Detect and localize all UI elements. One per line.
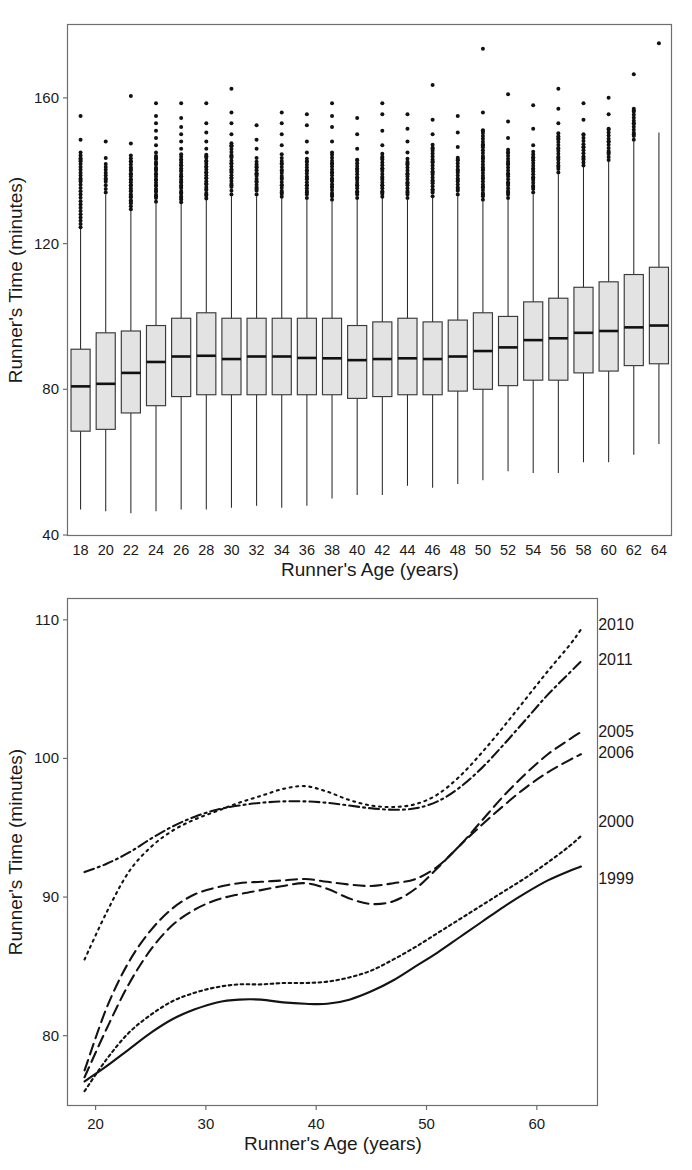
boxplot-outlier-point: [506, 92, 510, 96]
boxplot-outlier-point: [556, 87, 560, 91]
boxplot-outlier-point: [380, 152, 384, 156]
curves-x-axis-title: Runner's Age (years): [244, 1133, 422, 1154]
boxplot-outlier-point: [531, 191, 535, 195]
boxplot-svg: 4080120160 18202224262830323436384042444…: [0, 0, 692, 585]
boxplot-outlier-point: [405, 157, 409, 161]
boxplot-outlier-point: [481, 110, 485, 114]
boxplot-outlier-point: [657, 41, 661, 45]
boxplot-outlier-point: [481, 128, 485, 132]
boxplot-box: [574, 287, 593, 373]
boxplot-y-tick-label: 80: [42, 380, 59, 397]
boxplot-outlier-point: [154, 121, 158, 125]
boxplot-outlier-point: [355, 196, 359, 200]
boxplot-outlier-point: [632, 138, 636, 142]
boxplot-x-tick-label: 46: [425, 542, 441, 558]
boxplot-box: [297, 318, 316, 395]
boxplot-outlier-point: [380, 143, 384, 147]
boxplot-outlier-point: [405, 140, 409, 144]
boxplot-box: [398, 318, 417, 395]
boxplot-x-tick-label: 48: [450, 542, 466, 558]
boxplot-box: [96, 333, 115, 430]
boxplot-box: [498, 316, 517, 385]
boxplot-outlier-point: [204, 101, 208, 105]
boxplot-outlier-point: [431, 143, 435, 147]
boxplot-box: [197, 313, 216, 395]
boxplot-outlier-point: [556, 121, 560, 125]
boxplot-outlier-point: [305, 196, 309, 200]
boxplot-outlier-point: [280, 156, 284, 160]
boxplot-outlier-point: [79, 114, 83, 118]
boxplot-box: [71, 349, 90, 431]
boxplot-outlier-point: [581, 118, 585, 122]
boxplot-outlier-point: [154, 200, 158, 204]
boxplot-outlier-point: [305, 123, 309, 127]
boxplot-x-tick-label: 42: [374, 542, 390, 558]
boxplot-outlier-point: [456, 145, 460, 149]
curves-svg: 8090100110 2030405060 199920002005200620…: [0, 585, 692, 1170]
boxplot-outlier-point: [179, 147, 183, 151]
boxplot-x-tick-label: 26: [173, 542, 189, 558]
boxplot-outlier-point: [79, 151, 83, 155]
boxplot-outlier-point: [204, 153, 208, 157]
boxplot-outlier-point: [506, 120, 510, 124]
boxplot-outlier-point: [456, 130, 460, 134]
boxplot-outlier-point: [456, 192, 460, 196]
boxplot-outlier-point: [280, 143, 284, 147]
boxplot-outlier-point: [154, 101, 158, 105]
boxplot-x-tick-label: 38: [324, 542, 340, 558]
curve-label-2000: 2000: [598, 813, 634, 830]
boxplot-box: [146, 326, 165, 406]
boxplot-outlier-point: [204, 121, 208, 125]
boxplot-outlier-point: [280, 121, 284, 125]
boxplot-outlier-point: [431, 118, 435, 122]
boxplot-outlier-point: [179, 140, 183, 144]
boxplot-outlier-point: [154, 136, 158, 140]
boxplot-x-tick-label: 34: [274, 542, 290, 558]
boxplot-y-tick-label: 120: [34, 235, 59, 252]
boxplot-x-tick-label: 20: [98, 542, 114, 558]
boxplot-x-tick-label: 36: [299, 542, 315, 558]
boxplot-outlier-point: [280, 152, 284, 156]
boxplot-box: [649, 267, 668, 364]
curves-y-tick-label: 110: [35, 611, 59, 628]
boxplot-x-tick-label: 30: [223, 542, 239, 558]
curves-y-axis-title: Runner's Time (minutes): [5, 749, 26, 955]
boxplot-outlier-point: [280, 132, 284, 136]
boxplot-outlier-point: [355, 158, 359, 162]
boxplot-outlier-point: [79, 138, 83, 142]
boxplot-outlier-point: [129, 141, 133, 145]
boxplot-x-tick-label: 28: [198, 542, 214, 558]
boxplot-outlier-point: [129, 154, 133, 158]
boxplot-x-tick-label: 32: [249, 542, 265, 558]
boxplot-outlier-point: [204, 130, 208, 134]
boxplot-y-tick-label: 160: [34, 89, 59, 106]
boxplot-outlier-point: [330, 153, 334, 157]
boxplot-outlier-point: [305, 140, 309, 144]
boxplot-outlier-point: [456, 156, 460, 160]
boxplot-outlier-point: [154, 143, 158, 147]
boxplot-outlier-point: [380, 129, 384, 133]
boxplot-outlier-point: [305, 112, 309, 116]
boxplot-outlier-point: [355, 116, 359, 120]
boxplot-outlier-point: [305, 157, 309, 161]
curve-label-1999: 1999: [598, 870, 634, 887]
curve-label-2010: 2010: [598, 616, 634, 633]
boxplot-outlier-point: [355, 147, 359, 151]
curve-label-2005: 2005: [598, 723, 634, 740]
boxplot-outlier-point: [531, 103, 535, 107]
boxplot-outlier-point: [280, 110, 284, 114]
boxplot-outlier-point: [607, 112, 611, 116]
boxplot-x-tick-label: 58: [575, 542, 591, 558]
boxplot-box: [322, 318, 341, 395]
boxplot-outlier-point: [179, 155, 183, 159]
boxplot-outlier-point: [305, 151, 309, 155]
curves-x-tick-label: 40: [308, 1115, 325, 1132]
boxplot-outlier-point: [405, 127, 409, 131]
boxplot-outlier-point: [229, 132, 233, 136]
boxplot-outlier-point: [154, 154, 158, 158]
boxplot-outlier-point: [229, 192, 233, 196]
boxplot-outlier-point: [556, 171, 560, 175]
curve-label-2011: 2011: [598, 651, 633, 668]
curves-y-tick-label: 80: [42, 1027, 59, 1044]
boxplot-outlier-point: [255, 123, 259, 127]
